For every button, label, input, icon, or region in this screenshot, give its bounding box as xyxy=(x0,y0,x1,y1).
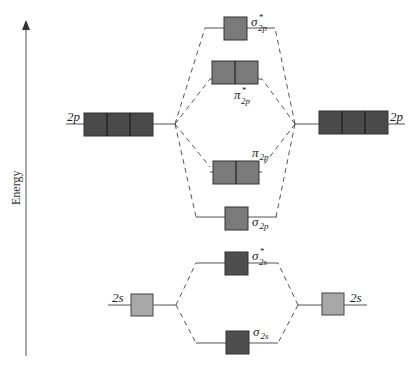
svg-text:π2p: π2p xyxy=(252,145,269,162)
mo-diagram: Energy 2p 2p σ*2p xyxy=(0,0,418,366)
left-2p-label: 2p xyxy=(67,109,81,124)
mo-sigma-star-2s: σ*2s xyxy=(196,246,278,275)
left-2s-label: 2s xyxy=(112,290,124,305)
svg-text:π*2p: π*2p xyxy=(234,85,251,106)
mo-pi-star-2p: π*2p xyxy=(210,61,262,106)
mo-pi-2p: π2p xyxy=(210,145,269,184)
correlation-lines-2p xyxy=(175,28,295,217)
axis-label: Energy xyxy=(9,171,23,205)
left-2p-orbital: 2p xyxy=(66,109,175,136)
right-2s-orbital: 2s xyxy=(298,290,367,315)
mo-sigma-star-2p: σ*2p xyxy=(205,12,275,40)
right-2p-label: 2p xyxy=(390,109,404,124)
right-2p-orbital: 2p xyxy=(295,109,405,134)
svg-text:σ2s: σ2s xyxy=(253,324,269,341)
arrow-up-icon xyxy=(22,20,30,30)
right-2s-label: 2s xyxy=(350,290,362,305)
svg-text:σ*2s: σ*2s xyxy=(252,246,267,267)
svg-text:σ*2p: σ*2p xyxy=(251,12,267,33)
mo-sigma-2s: σ2s xyxy=(196,324,278,354)
mo-sigma-2p: σ2p xyxy=(196,207,277,231)
left-2s-orbital: 2s xyxy=(108,290,176,316)
energy-axis: Energy xyxy=(9,20,30,356)
